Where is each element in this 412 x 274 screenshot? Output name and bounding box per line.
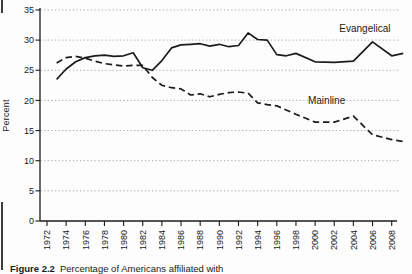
x-tick-label-1978: 1978 [100,230,110,250]
series-label-evangelical: Evangelical [339,23,390,34]
series-line-mainline [57,56,404,141]
x-tick-label-1984: 1984 [157,230,167,250]
figure-caption-text: Percentage of Americans affiliated with [60,263,224,274]
x-tick-label-1972: 1972 [42,230,52,250]
x-tick-label-1986: 1986 [176,230,186,250]
x-tick-label-1976: 1976 [81,230,91,250]
chart-svg: 0510152025303519721974197619781980198219… [0,0,412,262]
page-edge-mark-top [1,0,3,13]
x-tick-label-2002: 2002 [329,230,339,250]
y-tick-label-20: 20 [24,96,34,106]
x-tick-label-2004: 2004 [349,230,359,250]
x-tick-label-1988: 1988 [195,230,205,250]
x-tick-label-2000: 2000 [310,230,320,250]
figure-caption: Figure 2.2Percentage of Americans affili… [10,263,223,274]
y-tick-label-10: 10 [24,156,34,166]
y-tick-label-30: 30 [24,35,34,45]
x-tick-label-1974: 1974 [61,230,71,250]
x-tick-label-1994: 1994 [253,230,263,250]
x-tick-label-1982: 1982 [138,230,148,250]
y-tick-label-15: 15 [24,126,34,136]
y-tick-label-5: 5 [29,186,34,196]
figure-caption-prefix: Figure 2.2 [10,263,55,274]
series-label-mainline: Mainline [308,95,346,106]
y-tick-label-0: 0 [29,216,34,226]
page-edge-mark-bottom [1,202,3,270]
x-tick-label-1992: 1992 [234,230,244,250]
x-tick-label-1998: 1998 [291,230,301,250]
x-tick-label-2008: 2008 [387,230,397,250]
y-tick-label-35: 35 [24,5,34,15]
x-tick-label-1990: 1990 [215,230,225,250]
x-tick-label-2006: 2006 [368,230,378,250]
y-axis-title: Percent [1,99,11,132]
x-tick-label-1996: 1996 [272,230,282,250]
y-tick-label-25: 25 [24,65,34,75]
x-tick-label-1980: 1980 [119,230,129,250]
